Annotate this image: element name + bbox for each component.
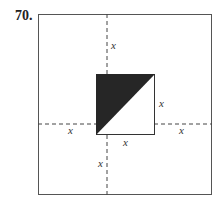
label-bottom-edge: x bbox=[122, 136, 128, 148]
label-bottom: x bbox=[97, 157, 103, 169]
label-right-side: x bbox=[158, 97, 164, 109]
label-top: x bbox=[110, 39, 116, 51]
label-right: x bbox=[178, 124, 184, 136]
label-left: x bbox=[67, 124, 73, 136]
figure: x x x x x x bbox=[0, 0, 223, 203]
